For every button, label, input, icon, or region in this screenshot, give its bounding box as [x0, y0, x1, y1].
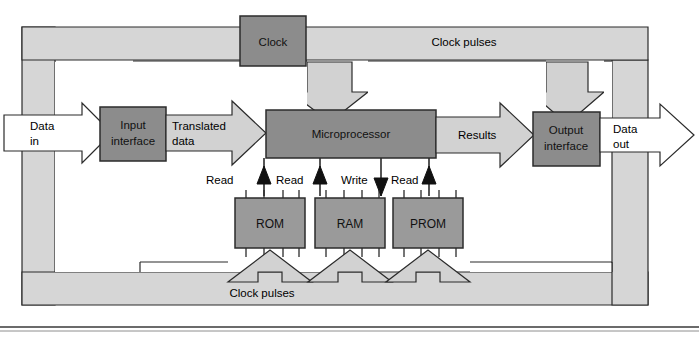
control-signal-write-ram: Write	[341, 158, 388, 196]
diagram-canvas: Clock pulses Clock Data in Input interfa…	[0, 0, 699, 345]
clock-pulses-top-label: Clock pulses	[431, 36, 496, 48]
prom-chip-label: PROM	[410, 217, 446, 231]
prom-chip[interactable]: PROM	[393, 190, 463, 257]
microprocessor-label: Microprocessor	[312, 128, 391, 140]
clock-block[interactable]: Clock	[240, 16, 306, 66]
clock-block-label: Clock	[259, 36, 288, 48]
clock-pulses-bottom-label: Clock pulses	[229, 287, 294, 299]
translated-data-label-line2: data	[172, 135, 195, 147]
input-interface-label-line2: interface	[111, 135, 155, 147]
output-interface-block[interactable]: Output interface	[533, 112, 600, 166]
data-out-label-line2: out	[613, 138, 630, 150]
input-interface-block[interactable]: Input interface	[100, 107, 166, 161]
control-signal-read-rom: Read	[206, 158, 271, 196]
data-in-label-line2: in	[30, 135, 39, 147]
control-label-read-rom: Read	[206, 174, 234, 186]
data-in-label-line1: Data	[30, 120, 55, 132]
microprocessor-block[interactable]: Microprocessor	[266, 110, 436, 158]
control-label-read-ram: Read	[276, 174, 304, 186]
output-interface-label-line1: Output	[549, 124, 584, 136]
block-diagram-svg: Clock pulses Clock Data in Input interfa…	[0, 0, 699, 345]
output-interface-label-line2: interface	[544, 140, 588, 152]
input-interface-label-line1: Input	[120, 119, 146, 131]
figure-bottom-rule	[0, 327, 699, 331]
translated-data-label-line1: Translated	[172, 120, 226, 132]
data-out-label-line1: Data	[613, 123, 638, 135]
control-signal-read-prom: Read	[391, 158, 436, 196]
control-label-write-ram: Write	[341, 174, 368, 186]
ram-chip[interactable]: RAM	[315, 190, 385, 257]
results-label: Results	[458, 129, 497, 141]
rom-chip-label: ROM	[256, 217, 284, 231]
rom-chip[interactable]: ROM	[235, 190, 305, 257]
ram-chip-label: RAM	[337, 217, 364, 231]
control-label-read-prom: Read	[391, 174, 419, 186]
